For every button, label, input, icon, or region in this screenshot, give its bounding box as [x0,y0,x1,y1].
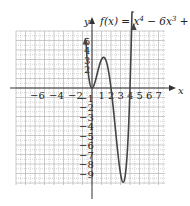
x-tick-label: −4 [49,90,64,101]
x-tick-label: −6 [30,90,45,101]
x-tick-label: 6 [146,90,152,101]
tick-labels: −6−4−212345675432−1−2−3−4−5−6−7−8−9 [30,36,162,180]
x-axis-label: x [178,85,184,96]
y-axis-label: y [83,16,90,27]
function-title: f(x) = x4 − 6x3 + 8x2 [99,15,190,27]
x-tick-label: 7 [156,90,162,101]
x-tick-label: 5 [137,90,143,101]
y-tick-label: −9 [79,169,94,180]
x-tick-label: 1 [99,90,105,101]
x-tick-label: 3 [118,90,124,101]
function-graph: −6−4−212345675432−1−2−3−4−5−6−7−8−9 y x … [0,0,190,206]
